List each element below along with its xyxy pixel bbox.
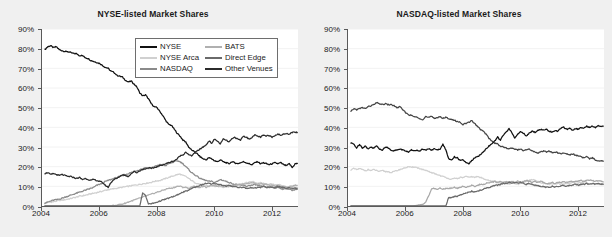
y-tick-label: 60% <box>18 84 34 93</box>
y-tick-mark <box>344 167 348 168</box>
y-tick-mark <box>38 29 42 30</box>
legend-swatch-icon <box>140 57 157 59</box>
y-tick-label: 70% <box>18 64 34 73</box>
legend-column: BATSDirect EdgeOther Venues <box>205 42 273 74</box>
x-axis-labels-left: 20042006200820102012 <box>41 209 298 229</box>
x-tick-mark <box>99 207 100 211</box>
x-tick-mark <box>214 207 215 211</box>
chart-figure: NYSE-listed Market Shares 90%80%70%60%50… <box>0 0 612 237</box>
y-tick-mark <box>38 187 42 188</box>
y-tick-mark <box>38 69 42 70</box>
y-tick-mark <box>38 128 42 129</box>
y-tick-mark <box>344 88 348 89</box>
legend-label: NYSE <box>160 42 181 52</box>
y-tick-label: 50% <box>324 104 340 113</box>
y-tick-label: 80% <box>18 44 34 53</box>
y-tick-mark <box>38 148 42 149</box>
x-axis-labels-right: 20042006200820102012 <box>347 209 604 229</box>
legend-column: NYSENYSE ArcaNASDAQ <box>140 42 199 74</box>
y-tick-label: 30% <box>324 143 340 152</box>
legend-item[interactable]: BATS <box>205 42 273 52</box>
chart-panel-nyse-listed: NYSE-listed Market Shares 90%80%70%60%50… <box>0 0 306 237</box>
y-tick-mark <box>344 108 348 109</box>
chart-panel-nasdaq-listed: NASDAQ-listed Market Shares 90%80%70%60%… <box>306 0 612 237</box>
series-line-other-venues <box>45 132 297 188</box>
y-tick-label: 90% <box>324 25 340 34</box>
legend-label: NASDAQ <box>160 64 193 74</box>
y-tick-mark <box>38 167 42 168</box>
x-tick-mark <box>272 207 273 211</box>
y-tick-label: 20% <box>324 163 340 172</box>
legend-label: Other Venues <box>225 64 273 74</box>
legend-item[interactable]: Other Venues <box>205 64 273 74</box>
y-tick-label: 40% <box>18 123 34 132</box>
y-tick-label: 40% <box>324 123 340 132</box>
y-tick-mark <box>344 128 348 129</box>
y-tick-label: 20% <box>18 163 34 172</box>
plot-svg-nasdaq-listed <box>348 29 604 206</box>
legend-swatch-icon <box>140 46 157 48</box>
x-tick-mark <box>41 207 42 211</box>
x-tick-mark <box>405 207 406 211</box>
legend-item[interactable]: Direct Edge <box>205 53 273 63</box>
x-tick-mark <box>578 207 579 211</box>
x-tick-mark <box>520 207 521 211</box>
y-tick-label: 90% <box>18 25 34 34</box>
legend-item[interactable]: NYSE Arca <box>140 53 199 63</box>
legend-label: NYSE Arca <box>160 53 199 63</box>
y-tick-mark <box>38 108 42 109</box>
y-tick-label: 10% <box>18 183 34 192</box>
y-tick-label: 50% <box>18 104 34 113</box>
y-tick-label: 60% <box>324 84 340 93</box>
y-tick-label: 30% <box>18 143 34 152</box>
series-line-nasdaq <box>351 102 603 161</box>
y-tick-mark <box>344 29 348 30</box>
y-tick-mark <box>344 187 348 188</box>
legend-item[interactable]: NYSE <box>140 42 199 52</box>
series-line-other-venues <box>351 126 603 164</box>
y-tick-mark <box>38 49 42 50</box>
x-tick-mark <box>347 207 348 211</box>
x-tick-mark <box>157 207 158 211</box>
legend-swatch-icon <box>140 68 157 70</box>
legend-nyse-listed: NYSENYSE ArcaNASDAQBATSDirect EdgeOther … <box>135 38 278 78</box>
y-tick-mark <box>344 148 348 149</box>
plot-area-nasdaq-listed <box>347 29 604 207</box>
legend-swatch-icon <box>205 46 222 48</box>
y-tick-label: 80% <box>324 44 340 53</box>
legend-swatch-icon <box>205 68 222 70</box>
y-tick-mark <box>344 69 348 70</box>
y-axis-labels-right: 90%80%70%60%50%40%30%20%10%0% <box>306 29 344 207</box>
y-tick-mark <box>344 49 348 50</box>
legend-label: BATS <box>225 42 245 52</box>
legend-item[interactable]: NASDAQ <box>140 64 199 74</box>
y-axis-labels-left: 90%80%70%60%50%40%30%20%10%0% <box>0 29 38 207</box>
legend-swatch-icon <box>205 57 222 59</box>
chart-title-nasdaq-listed: NASDAQ-listed Market Shares <box>306 9 612 19</box>
legend-label: Direct Edge <box>225 53 266 63</box>
y-tick-label: 70% <box>324 64 340 73</box>
x-tick-mark <box>463 207 464 211</box>
chart-title-nyse-listed: NYSE-listed Market Shares <box>0 9 306 19</box>
y-tick-label: 10% <box>324 183 340 192</box>
y-tick-mark <box>38 88 42 89</box>
